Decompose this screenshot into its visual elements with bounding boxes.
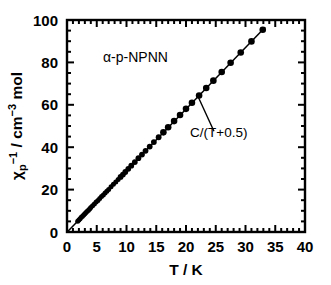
x-tick-label: 0: [63, 238, 71, 255]
x-tick-label: 5: [93, 238, 101, 255]
x-tick-label: 30: [237, 238, 254, 255]
data-point: [171, 118, 178, 125]
x-tick-label: 20: [178, 238, 195, 255]
chart-figure: 0510152025303540 020406080100 T / K χp−1…: [0, 0, 331, 285]
y-axis-title-superscript-2: −3: [6, 104, 18, 117]
y-axis-title-chi: χ: [8, 171, 25, 180]
y-axis-title-mid: / cm: [8, 116, 25, 151]
data-point: [177, 112, 184, 119]
data-point: [151, 139, 157, 145]
x-tick-labels: 0510152025303540: [63, 238, 314, 255]
chart-canvas: 0510152025303540 020406080100 T / K χp−1…: [0, 0, 331, 285]
y-tick-label: 0: [50, 224, 58, 241]
data-point: [227, 60, 234, 67]
data-point: [143, 148, 149, 154]
x-tick-label: 15: [148, 238, 165, 255]
x-tick-label: 25: [207, 238, 224, 255]
fit-formula-annotation: C/(T+0.5): [190, 125, 247, 140]
data-point: [147, 144, 153, 150]
y-tick-label: 20: [41, 181, 58, 198]
data-point: [259, 26, 266, 33]
sample-name-annotation: α-p-NPNN: [103, 49, 168, 65]
y-tick-label: 80: [41, 54, 58, 71]
data-point: [183, 106, 190, 113]
x-tick-label: 40: [297, 238, 314, 255]
data-point: [210, 77, 217, 84]
data-point: [189, 99, 196, 106]
data-point: [203, 85, 210, 92]
y-axis-title-superscript: −1: [7, 152, 19, 165]
y-axis-title-tail: mol: [8, 72, 25, 104]
y-tick-label: 60: [41, 96, 58, 113]
data-point: [218, 69, 225, 76]
data-point: [237, 49, 244, 56]
y-tick-label: 100: [33, 12, 58, 29]
data-point: [165, 124, 172, 131]
data-point: [248, 38, 255, 45]
x-axis-title: T / K: [169, 261, 203, 278]
x-tick-label: 35: [267, 238, 284, 255]
data-point: [160, 129, 167, 136]
x-tick-label: 10: [118, 238, 135, 255]
data-point: [156, 134, 162, 140]
y-tick-label: 40: [41, 139, 58, 156]
